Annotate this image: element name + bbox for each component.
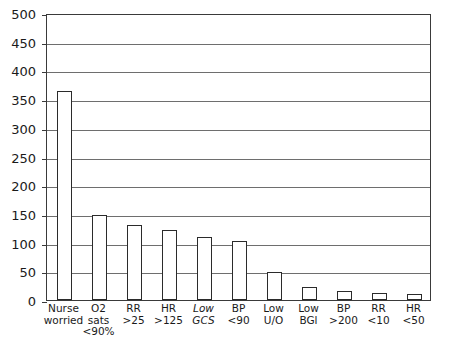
bar [197, 237, 212, 300]
bar [267, 272, 282, 300]
y-axis-tick-label: 0 [0, 295, 36, 308]
y-axis-tick-label: 350 [0, 94, 36, 107]
bar [92, 215, 107, 300]
plot-area [46, 14, 431, 301]
bar-chart: 500450400350300250200150100500 Nurseworr… [0, 0, 450, 345]
y-axis-tick-label: 400 [0, 65, 36, 78]
y-axis-tick-label: 450 [0, 36, 36, 49]
y-axis-tick-label: 250 [0, 151, 36, 164]
y-axis-tick-label: 300 [0, 122, 36, 135]
bars-layer [47, 15, 430, 300]
x-axis-tick-label: HR<50 [392, 303, 435, 326]
y-axis-tick-label: 50 [0, 266, 36, 279]
bar [372, 293, 387, 300]
bar [337, 291, 352, 300]
bar [407, 294, 422, 300]
y-axis-tick-label: 500 [0, 8, 36, 21]
x-axis: NurseworriedO2sats<90%RR>25HR>125LowGCSB… [46, 303, 431, 345]
y-axis-tick-label: 150 [0, 208, 36, 221]
bar [162, 230, 177, 300]
y-axis-tick-label: 100 [0, 237, 36, 250]
y-axis: 500450400350300250200150100500 [0, 0, 36, 345]
bar [302, 287, 317, 300]
bar [127, 225, 142, 300]
y-axis-tick-label: 200 [0, 180, 36, 193]
bar [232, 241, 247, 300]
bar [57, 91, 72, 301]
